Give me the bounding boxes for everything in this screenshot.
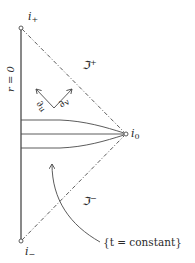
future-timelike-infinity-node (19, 26, 23, 30)
d-v-label: ∂v (56, 94, 72, 110)
d-u-label: ∂u (33, 98, 49, 114)
future-null-infinity-label: ℑ+ (82, 58, 97, 72)
past-null-infinity-edge (22, 136, 124, 240)
future-null-infinity-edge (22, 29, 124, 132)
r-zero-label: r = 0 (5, 65, 16, 92)
past-timelike-infinity-node (19, 239, 23, 243)
spatial-infinity-node (124, 132, 128, 136)
constant-t-annotation: {t = constant} (103, 236, 182, 249)
past-null-infinity-label: ℑ− (82, 194, 97, 208)
penrose-diagram: i+ i− i0 r = 0 ℑ+ ℑ− ∂u ∂v {t = constant… (0, 0, 195, 263)
constant-t-surfaces (21, 120, 124, 148)
past-timelike-infinity-label: i− (25, 245, 35, 259)
spatial-infinity-label: i0 (131, 127, 140, 141)
surface-lower (21, 135, 124, 148)
surface-upper (21, 120, 124, 133)
annotation-arrow (52, 164, 100, 242)
future-timelike-infinity-label: i+ (28, 10, 38, 24)
